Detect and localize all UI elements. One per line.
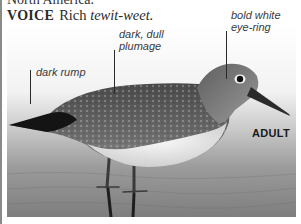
voice-heading: VOICE xyxy=(7,8,54,23)
leader-line-rump xyxy=(30,70,31,104)
age-tag: ADULT xyxy=(252,127,290,139)
voice-call: tewit-weet. xyxy=(90,7,153,23)
leader-line-plumage xyxy=(114,50,115,94)
label-plumage-line1: dark, dull xyxy=(119,28,164,40)
solitary-sandpiper-illustration xyxy=(7,24,296,217)
voice-description: VOICERich tewit-weet. xyxy=(7,7,153,24)
voice-text: Rich xyxy=(59,7,86,23)
label-plumage: dark, dull plumage xyxy=(119,28,164,52)
label-eye-ring-line2: eye-ring xyxy=(231,21,281,33)
label-dark-rump: dark rump xyxy=(36,66,86,78)
leader-line-eye-ring xyxy=(226,31,227,79)
label-eye-ring-line1: bold white xyxy=(231,9,281,21)
label-eye-ring: bold white eye-ring xyxy=(231,9,281,33)
label-plumage-line2: plumage xyxy=(119,40,164,52)
bird-photo xyxy=(7,24,296,217)
page-left-rule xyxy=(0,0,2,224)
